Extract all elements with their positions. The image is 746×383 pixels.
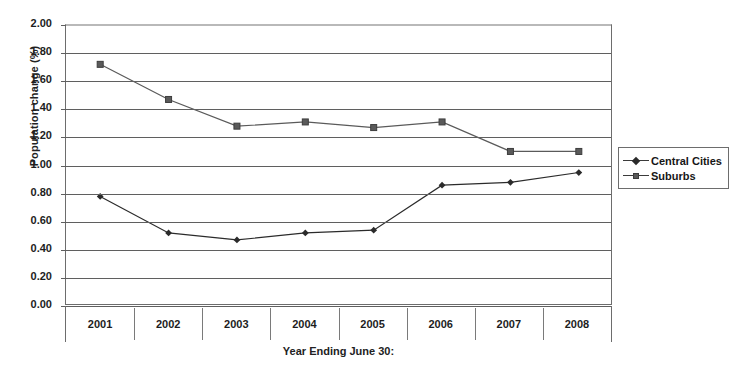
data-point-marker-square (166, 96, 172, 102)
y-tick-mark (61, 25, 66, 26)
x-axis-category-label: 2005 (339, 306, 407, 342)
data-point-marker-diamond (165, 230, 172, 237)
y-tick-label: 0.00 (10, 299, 52, 310)
gridline (66, 278, 611, 279)
y-tick-label: 1.00 (10, 159, 52, 170)
legend-marker-glyph (633, 173, 639, 179)
y-tick-label: 0.80 (10, 187, 52, 198)
y-tick-label: 1.80 (10, 46, 52, 57)
y-tick-mark (61, 81, 66, 82)
series-line (100, 173, 579, 240)
data-point-marker-square (97, 61, 103, 67)
gridline (66, 137, 611, 138)
legend-marker-glyph (632, 156, 640, 164)
x-axis-category-label: 2008 (543, 306, 611, 342)
x-axis-category-label: 2007 (475, 306, 543, 342)
y-tick-label: 0.60 (10, 215, 52, 226)
data-point-marker-diamond (370, 227, 377, 234)
x-axis-category-label: 2006 (407, 306, 475, 342)
chart-legend: Central CitiesSuburbs (618, 147, 729, 189)
gridline (66, 53, 611, 54)
y-tick-mark (61, 222, 66, 223)
population-change-line-chart: Population change (%) 2.001.801.601.401.… (0, 0, 746, 383)
gridline (66, 194, 611, 195)
data-point-marker-diamond (234, 237, 241, 244)
data-point-marker-diamond (302, 230, 309, 237)
y-tick-mark (61, 250, 66, 251)
y-axis-tick-labels: 2.001.801.601.401.201.000.800.600.400.20… (0, 0, 52, 383)
x-axis-category-label: 2001 (66, 306, 134, 342)
y-tick-label: 1.40 (10, 102, 52, 113)
legend-item-label: Suburbs (649, 170, 696, 182)
y-tick-mark (61, 194, 66, 195)
y-tick-label: 0.40 (10, 243, 52, 254)
x-axis-category-label: 2003 (202, 306, 270, 342)
x-axis-category-band: 20012002200320042005200620072008 (65, 306, 612, 342)
data-point-marker-square (439, 119, 445, 125)
data-point-marker-square (234, 123, 240, 129)
data-point-marker-diamond (575, 169, 582, 176)
data-point-marker-diamond (439, 182, 446, 189)
gridline (66, 250, 611, 251)
legend-item-label: Central Cities (649, 155, 722, 167)
data-point-marker-square (576, 148, 582, 154)
y-tick-label: 0.20 (10, 271, 52, 282)
x-axis-category-label: 2002 (134, 306, 202, 342)
y-tick-mark (61, 137, 66, 138)
y-tick-label: 1.20 (10, 130, 52, 141)
y-tick-mark (61, 53, 66, 54)
y-tick-mark (61, 166, 66, 167)
gridline (66, 109, 611, 110)
plot-area (65, 24, 612, 305)
y-tick-mark (61, 278, 66, 279)
data-point-marker-square (302, 119, 308, 125)
x-axis-title: Year Ending June 30: (65, 345, 612, 357)
y-tick-label: 1.60 (10, 74, 52, 85)
data-point-marker-diamond (507, 179, 514, 186)
legend-square-marker-icon (623, 170, 649, 182)
x-axis-category-label: 2004 (270, 306, 338, 342)
legend-diamond-marker-icon (623, 155, 649, 167)
y-tick-mark (61, 109, 66, 110)
gridline (66, 25, 611, 26)
gridline (66, 222, 611, 223)
y-tick-label: 2.00 (10, 18, 52, 29)
data-point-marker-square (507, 148, 513, 154)
legend-item-central-cities[interactable]: Central Cities (623, 153, 722, 168)
gridline (66, 81, 611, 82)
gridline (66, 166, 611, 167)
data-point-marker-square (371, 125, 377, 131)
legend-item-suburbs[interactable]: Suburbs (623, 168, 722, 183)
